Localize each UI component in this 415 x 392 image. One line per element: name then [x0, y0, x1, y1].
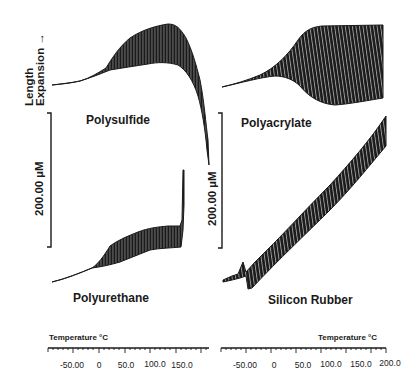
left-tick-label: 150.0	[171, 360, 192, 370]
panel-label-silicon-rubber: Silicon Rubber	[268, 293, 353, 307]
scale-bar-left-label: 200.00 µM	[33, 161, 45, 216]
left-temperature-axis	[48, 348, 209, 353]
y-axis-title-text: Expansion →	[34, 33, 46, 106]
silicon-rubber-curve	[223, 116, 386, 289]
polysulfide-curve	[52, 24, 209, 165]
y-axis-title-line2-wrap: Expansion →	[34, 33, 46, 106]
right-tick-label: 0	[272, 360, 277, 370]
polyacrylate-curve	[222, 25, 383, 105]
right-tick-label: 100.0	[320, 359, 341, 369]
left-axis-title: Temperature °C	[49, 333, 108, 342]
right-tick-label: 150.0	[350, 359, 371, 369]
scale-bar-right	[218, 113, 222, 248]
polyurethane-curve	[52, 170, 184, 282]
panel-label-polyurethane: Polyurethane	[73, 291, 149, 305]
scale-bar-left	[47, 113, 51, 247]
panel-label-polyacrylate: Polyacrylate	[241, 116, 312, 130]
left-tick-label: 50.0	[118, 360, 135, 370]
right-tick-label: 50.0	[295, 360, 312, 370]
right-temperature-axis	[221, 348, 386, 353]
scale-bar-right-label: 200.00 µM	[206, 171, 218, 226]
right-axis-title: Temperature °C	[318, 333, 377, 342]
panel-label-polysulfide: Polysulfide	[86, 113, 150, 127]
left-tick-label: 0	[97, 360, 102, 370]
right-tick-label: 200.0	[379, 358, 400, 368]
left-tick-label: 100.0	[144, 359, 165, 369]
left-tick-label: -50.00	[60, 360, 84, 370]
right-tick-label: -50.00	[233, 360, 257, 370]
